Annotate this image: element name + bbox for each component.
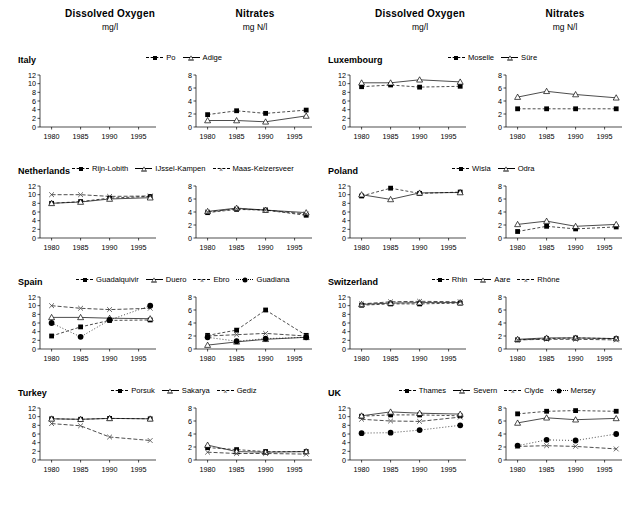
- svg-text:1980: 1980: [200, 465, 216, 474]
- svg-text:8: 8: [188, 404, 192, 413]
- legend-item[interactable]: Sakarya: [162, 386, 210, 395]
- legend-item[interactable]: Rhin: [432, 275, 468, 284]
- legend-item[interactable]: Porsuk: [111, 386, 155, 395]
- svg-text:1995: 1995: [597, 243, 613, 252]
- svg-text:2: 2: [32, 447, 36, 456]
- svg-text:1995: 1995: [131, 465, 147, 474]
- country-label: Switzerland: [328, 277, 378, 287]
- svg-text:1980: 1980: [510, 132, 526, 141]
- legend-item[interactable]: IJssel-Kampen: [135, 164, 205, 173]
- legend-item[interactable]: ×Maas-Keizersveer: [213, 164, 294, 173]
- chart-nitrates-poland: 024681980198519901995: [480, 180, 628, 258]
- legend-item[interactable]: Moselle: [448, 53, 494, 62]
- legend-key: [72, 165, 89, 173]
- column-header-units: mg N/l: [490, 22, 637, 33]
- legend-item[interactable]: Adige: [183, 53, 222, 62]
- legend-marker-square: [79, 167, 83, 171]
- legend-key: [551, 387, 568, 395]
- svg-text:1995: 1995: [287, 465, 303, 474]
- svg-text:0: 0: [188, 345, 192, 354]
- svg-text:2: 2: [188, 443, 192, 452]
- legend-item[interactable]: Mersey: [551, 386, 596, 395]
- column-header-units: mg/l: [30, 22, 190, 33]
- chart-dissolved-oxygen-poland: 0246810121980198519901995: [324, 180, 472, 258]
- svg-text:6: 6: [188, 417, 192, 426]
- svg-text:10: 10: [28, 412, 36, 421]
- svg-text:2: 2: [188, 110, 192, 119]
- svg-text:4: 4: [342, 105, 346, 114]
- svg-text:1985: 1985: [229, 354, 245, 363]
- svg-text:1990: 1990: [102, 465, 118, 474]
- svg-text:0: 0: [498, 234, 502, 243]
- legend-item[interactable]: Wisla: [452, 164, 491, 173]
- legend-key: [111, 387, 128, 395]
- svg-text:6: 6: [498, 195, 502, 204]
- legend-item[interactable]: Po: [146, 53, 175, 62]
- legend-item[interactable]: ×Clyde: [504, 386, 543, 395]
- chart-nitrates-netherlands: 024681980198519901995: [170, 180, 318, 258]
- svg-text:12: 12: [28, 404, 36, 413]
- svg-text:1980: 1980: [44, 243, 60, 252]
- chart-nitrates-spain: 024681980198519901995: [170, 291, 318, 369]
- svg-text:0: 0: [32, 234, 36, 243]
- legend-label: Duero: [166, 275, 187, 284]
- legend-item[interactable]: Süre: [501, 53, 537, 62]
- country-block-netherlands: NetherlandsRijn-LobithIJssel-Kampen×Maas…: [10, 166, 320, 274]
- svg-text:1990: 1990: [412, 465, 428, 474]
- legend-marker-square: [459, 167, 463, 171]
- chart-dissolved-oxygen-luxembourg: 0246810121980198519901995: [324, 69, 472, 147]
- legend: WislaOdra: [452, 164, 534, 173]
- legend-marker-cross: ×: [511, 387, 515, 394]
- legend-key: [146, 54, 163, 62]
- svg-text:2: 2: [188, 332, 192, 341]
- svg-text:0: 0: [342, 456, 346, 465]
- svg-text:1995: 1995: [441, 465, 457, 474]
- chart-nitrates-uk: 024681980198519901995: [480, 402, 628, 480]
- svg-text:1990: 1990: [258, 354, 274, 363]
- legend-item[interactable]: Odra: [498, 164, 535, 173]
- country-block-turkey: TurkeyPorsukSakarya×Gediz024681012198019…: [10, 388, 320, 496]
- country-label: UK: [328, 388, 341, 398]
- legend-marker-triangle: [141, 166, 147, 171]
- svg-text:2: 2: [498, 332, 502, 341]
- legend-item[interactable]: Guadalquivir: [76, 275, 139, 284]
- svg-text:1995: 1995: [597, 354, 613, 363]
- column-header-nit-left: Nitrates mg N/l: [180, 8, 330, 33]
- column-header-nit-right: Nitrates mg N/l: [490, 8, 637, 33]
- svg-text:1990: 1990: [568, 465, 584, 474]
- legend-label: Süre: [521, 53, 537, 62]
- svg-text:8: 8: [188, 293, 192, 302]
- legend-label: Mersey: [571, 386, 596, 395]
- legend: PoAdige: [146, 53, 222, 62]
- svg-text:1985: 1985: [229, 243, 245, 252]
- legend-item[interactable]: Severn: [453, 386, 497, 395]
- svg-text:2: 2: [498, 221, 502, 230]
- svg-text:6: 6: [188, 84, 192, 93]
- legend-label: Odra: [518, 164, 535, 173]
- legend-label: Clyde: [524, 386, 543, 395]
- svg-text:6: 6: [188, 195, 192, 204]
- svg-text:0: 0: [498, 345, 502, 354]
- legend-item[interactable]: Rijn-Lobith: [72, 164, 128, 173]
- legend-marker-triangle: [188, 55, 194, 60]
- svg-text:0: 0: [32, 123, 36, 132]
- country-block-spain: SpainGuadalquivirDuero×EbroGuadiana02468…: [10, 277, 320, 385]
- legend: RhinAare×Rhône: [432, 275, 560, 284]
- legend-item[interactable]: ×Ebro: [193, 275, 229, 284]
- country-label: Italy: [18, 55, 36, 65]
- svg-text:1995: 1995: [441, 243, 457, 252]
- legend-item[interactable]: Duero: [146, 275, 187, 284]
- legend-item[interactable]: Guadiana: [236, 275, 289, 284]
- legend-key: [501, 54, 518, 62]
- legend-item[interactable]: Aare: [474, 275, 510, 284]
- svg-text:2: 2: [188, 221, 192, 230]
- legend-key: [146, 276, 163, 284]
- svg-text:6: 6: [32, 430, 36, 439]
- legend: MoselleSüre: [448, 53, 537, 62]
- legend-item[interactable]: ×Gediz: [217, 386, 257, 395]
- svg-text:1985: 1985: [539, 354, 555, 363]
- legend-item[interactable]: Thames: [399, 386, 446, 395]
- legend-item[interactable]: ×Rhône: [517, 275, 559, 284]
- svg-text:10: 10: [338, 301, 346, 310]
- svg-text:4: 4: [32, 327, 36, 336]
